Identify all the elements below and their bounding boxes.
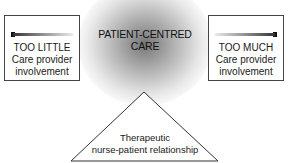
triangle-label-line2: nurse-patient relationship [74,144,216,156]
triangle-label: Therapeutic nurse-patient relationship [74,132,216,155]
triangle-label-line1: Therapeutic [74,132,216,144]
